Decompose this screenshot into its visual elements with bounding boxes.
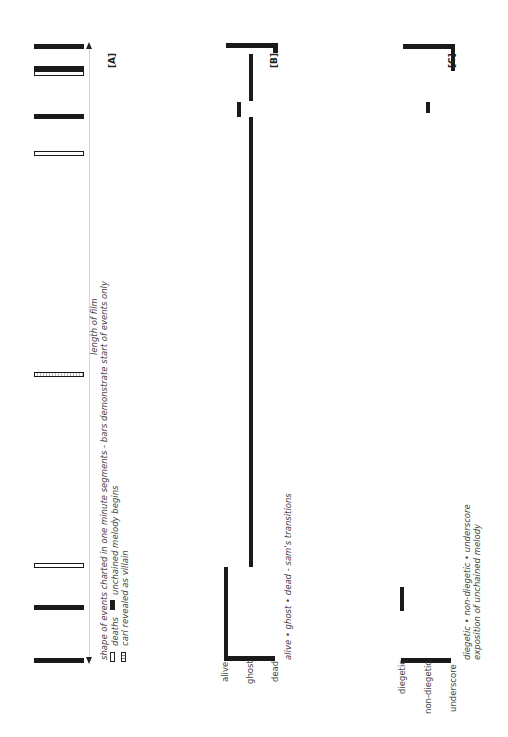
level-label-diegetic: diegetic	[397, 660, 407, 694]
level-label-underscore: underscore	[448, 664, 458, 712]
panel-c-caption: diegetic • non-diegetic • underscore	[462, 504, 472, 660]
panel-c-subcaption: exposition of unchained melody	[472, 524, 482, 660]
state-line-alive	[224, 567, 228, 659]
panel-a-tag: [A]	[107, 53, 117, 68]
music-line-nondiegetic	[400, 587, 404, 611]
music-line-nondiegetic	[426, 102, 430, 113]
state-line-dead-end	[226, 43, 278, 48]
legend-swatch-melody	[110, 600, 115, 610]
axis-arrow-down-icon	[86, 657, 92, 664]
level-label-nondiegetic: non-diegetic	[423, 661, 433, 714]
event-bar-death	[34, 71, 84, 76]
panel-c-tag: [C]	[447, 53, 457, 68]
level-label-ghost: ghost	[245, 660, 255, 684]
event-bar-villain	[34, 372, 84, 377]
panel-b-caption: alive • ghost • dead - sam's transitions	[283, 493, 293, 660]
legend-swatch-villain	[121, 652, 126, 662]
event-bar-melody	[34, 658, 84, 663]
state-line-dead-tick	[273, 43, 278, 53]
event-bar-melody	[34, 114, 84, 119]
panel-b-tag: [B]	[269, 53, 279, 68]
music-line-underscore-end	[403, 44, 455, 49]
legend-label-deaths: deaths	[110, 617, 120, 646]
level-label-alive: alive	[220, 662, 230, 682]
event-bar-melody	[34, 605, 84, 610]
chart-title: shape of events charted in one minute se…	[99, 281, 109, 660]
state-line-alive	[237, 102, 241, 117]
event-bar-death	[34, 151, 84, 156]
event-bar-melody	[34, 44, 84, 49]
legend-label-melody: unchained melody begins	[110, 485, 120, 595]
legend-swatch-deaths	[110, 652, 115, 662]
level-label-dead: dead	[270, 661, 280, 682]
state-line-ghost	[249, 54, 253, 101]
axis-label: length of film	[89, 298, 99, 355]
axis-arrow-up-icon	[86, 42, 92, 49]
event-bar-death	[34, 563, 84, 568]
state-line-ghost	[249, 117, 253, 567]
legend-label-villain: carl revealed as villain	[120, 550, 130, 646]
